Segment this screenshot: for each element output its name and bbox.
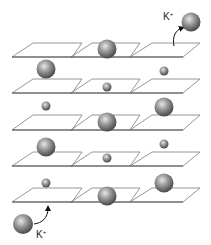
large-ion-sphere <box>37 138 56 157</box>
k-ion-sphere <box>182 13 201 32</box>
layer-plane <box>130 115 200 130</box>
k-ion-sphere <box>13 214 33 234</box>
large-ion-sphere <box>98 113 117 132</box>
k-ion-label: K+ <box>163 11 174 22</box>
interlayer-ions <box>37 40 174 206</box>
small-ion-sphere <box>160 140 169 149</box>
layer-plane <box>12 115 82 130</box>
layer-plane <box>130 43 200 57</box>
small-ion-sphere <box>42 179 51 188</box>
enter-arrow-icon <box>34 208 48 224</box>
large-ion-sphere <box>155 174 174 193</box>
large-ion-sphere <box>98 40 117 59</box>
k-ion-label: K+ <box>36 229 47 240</box>
small-ion-sphere <box>160 67 169 76</box>
layer-plane <box>12 43 82 57</box>
layer-plane <box>12 79 82 93</box>
small-ion-sphere <box>42 102 51 111</box>
large-ion-sphere <box>155 98 174 117</box>
small-ion-sphere <box>103 154 112 163</box>
layer-plane <box>130 152 200 166</box>
entering-k-ion: K+ <box>13 208 48 240</box>
layer-plane <box>130 79 200 93</box>
intercalation-diagram: K+ K+ <box>0 0 211 245</box>
large-ion-sphere <box>37 60 56 79</box>
large-ion-sphere <box>98 187 117 206</box>
layer-plane <box>12 188 82 202</box>
small-ion-sphere <box>103 83 112 92</box>
exiting-k-ion: K+ <box>163 11 201 46</box>
